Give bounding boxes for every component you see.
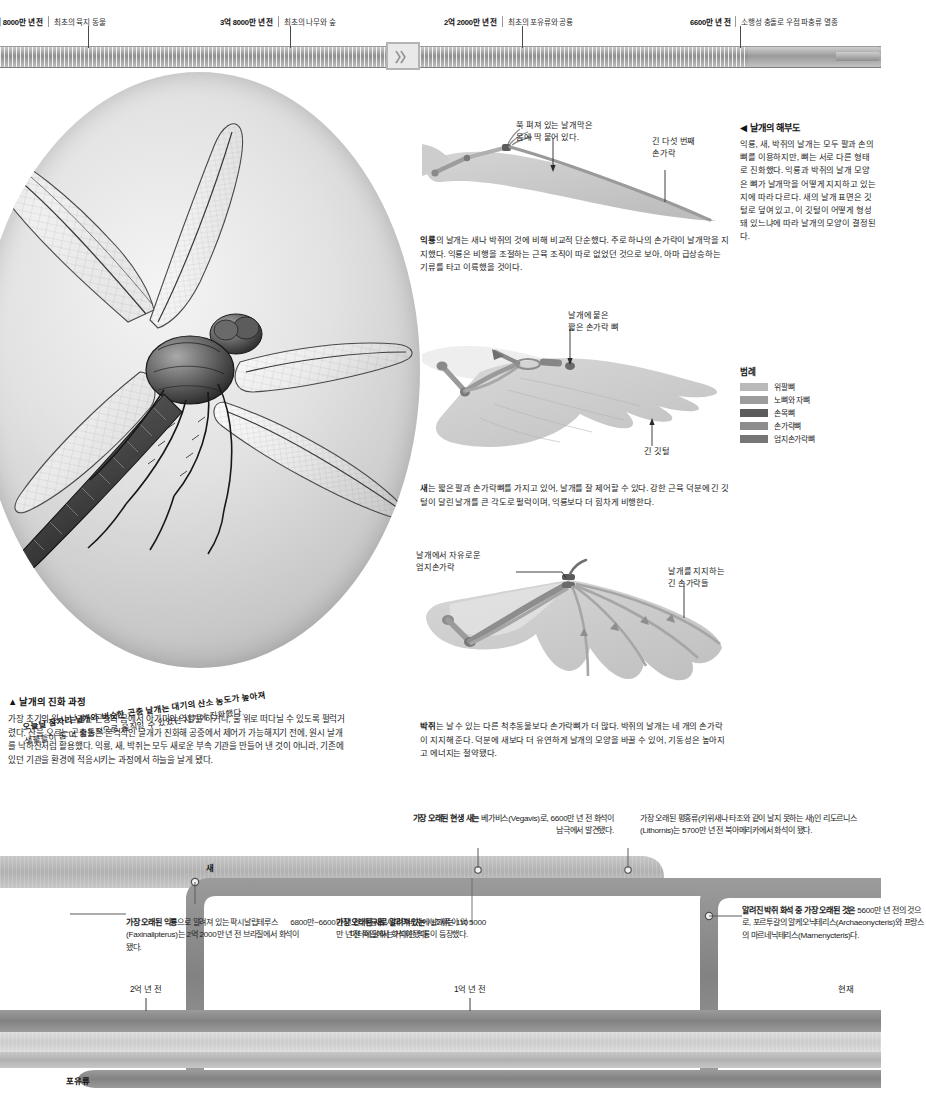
bird-caption: 새는 짧은 팔과 손가락뼈를 가지고 있어, 날개를 잘 제어할 수 있다. 강…	[420, 482, 730, 509]
legend-swatch-thumb	[740, 435, 768, 443]
note-oldest-living-bird-bold: 가장 오래된 현생 새는	[413, 814, 480, 823]
evolution-text-block: ▲ 날개의 진화 과정 가장 초기의 원시 날개는 곤충의 몸에서 아가미의 역…	[8, 694, 348, 767]
legend-label-carpal: 손목뼈	[774, 407, 794, 418]
timeline-sep-3	[735, 16, 736, 27]
dragonfly-photo-panel: 오늘날 잠자리 날개와 비슷한 곤충 날개는 대기의 산소 농도가 높아져 생물…	[0, 72, 420, 668]
bird-note-finger-bone: 날개에 붙은 짧은 손가락 뼈	[568, 310, 619, 335]
dragonfly-illustration	[0, 72, 420, 668]
note-giant-pterosaur-rest: 6800만~6600만 년 전, 익룡의 시대 막바지에 날개폭이 10미터에 …	[290, 918, 468, 940]
timeline-event-0-age: 4억 8000만 년 전	[0, 18, 43, 27]
band-mammals	[78, 1070, 881, 1088]
anatomy-body: 익룡, 새, 박쥐의 날개는 모두 팔과 손의 뼈를 이용하지만, 뼈는 서로 …	[740, 138, 876, 244]
track-label-mammals: 포유류	[66, 1074, 89, 1086]
bottom-timeline-graphic	[0, 848, 881, 1088]
pterosaur-note-fifth-finger: 긴 다섯 번째 손가락	[652, 136, 695, 161]
legend-swatch-humerus	[740, 383, 768, 391]
timeline-bar-tail	[836, 52, 881, 61]
timeline-event-3-age: 6600만 년 전	[690, 18, 730, 27]
legend-swatch-radius-ulna	[740, 396, 768, 404]
diagram-bird: 날개에 붙은 짧은 손가락 뼈 긴 깃털 새는 짧은 팔과 손가락뼈를 가지고 …	[420, 318, 730, 509]
timeline-event-3: 6600만 년 전소행성 충돌로 우점 파충류 멸종	[690, 16, 837, 28]
dragonfly-hindwing-left	[150, 124, 242, 328]
pterosaur-caption-rest: 의 날개는 새나 박쥐의 것에 비해 비교적 단순했다. 주로 하나의 손가락이…	[420, 235, 728, 272]
legend-swatch-phalanx	[740, 422, 768, 430]
pterosaur-caption-lead: 익룡	[420, 235, 436, 245]
legend-label-thumb: 엄지손가락뼈	[774, 433, 815, 444]
note-oldest-ratite: 가장 오래된 평흉류(키위새나 타조와 같이 날지 못하는 새)인 리도르니스(…	[640, 800, 872, 838]
timeline-tick-2	[522, 26, 523, 48]
timeline-event-1-text: 최초의 나무와 숲	[284, 18, 335, 27]
bird-note-long-feather: 긴 깃털	[644, 446, 669, 458]
note-oldest-bat-fossil: 알려진 박쥐 화석 중 가장 오래된 것은 5600만 년 전의 것으로, 포르…	[742, 892, 926, 942]
evolution-body: 가장 초기의 원시 날개는 곤충의 몸에서 아가미의 역할을 하거나, 물 위로…	[8, 713, 348, 767]
legend-title: 범례	[740, 365, 876, 377]
legend: 범례 위팔뼈 노뼈와 자뼈 손목뼈 손가락뼈 엄지손가락뼈	[740, 365, 876, 446]
dragonfly-forewing-left	[0, 156, 154, 322]
timeline-sep-0	[48, 16, 49, 27]
note-oldest-living-bird: 가장 오래된 현생 새는 베가비스(Vegavis)로, 6600만 년 전 화…	[408, 800, 614, 838]
legend-swatch-carpal	[740, 409, 768, 417]
bird-wing-illustration	[420, 318, 730, 458]
bat-caption-rest: 는 날 수 있는 다른 척추동물보다 손가락뼈가 더 많다. 박쥐의 날개는 네…	[420, 721, 725, 758]
bird-caption-lead: 새	[420, 483, 428, 493]
diagram-bird-art	[420, 318, 730, 458]
pterosaur-caption: 익룡의 날개는 새나 박쥐의 것에 비해 비교적 단순했다. 주로 하나의 손가…	[420, 234, 730, 275]
band-ground-mid	[0, 1052, 881, 1068]
diagram-bat: 날개에서 자유로운 엄지손가락 날개를 지지하는 긴 손가락들 박쥐는 날 수 …	[420, 556, 730, 761]
evolution-heading: ▲ 날개의 진화 과정	[8, 694, 348, 708]
timeline-tick-0	[88, 26, 89, 48]
dragonfly-photo	[0, 72, 420, 668]
band-ground-dark	[0, 1010, 881, 1032]
timeline-sep-1	[278, 16, 279, 27]
note-oldest-pterosaur-bold: 가장 오래된 익룡	[126, 918, 177, 927]
timeline-tick-1	[290, 26, 291, 48]
bottom-timeline: 가장 오래된 현생 새는 베가비스(Vegavis)로, 6600만 년 전 화…	[0, 848, 881, 1088]
note-oldest-bat-fossil-bold: 알려진 박쥐 화석 중 가장 오래된 것은	[742, 906, 855, 915]
timeline-event-1-age: 3억 8000만 년 전	[220, 18, 273, 27]
dragonfly-hindwing-right	[214, 402, 403, 518]
legend-item-phalanx: 손가락뼈	[740, 420, 876, 431]
dragonfly-forewing-right	[235, 343, 412, 392]
timeline-sep-2	[502, 16, 503, 27]
bird-caption-rest: 는 짧은 팔과 손가락뼈를 가지고 있어, 날개를 잘 제어할 수 있다. 강한…	[420, 483, 729, 507]
legend-item-humerus: 위팔뼈	[740, 381, 876, 392]
bat-note-free-thumb: 날개에서 자유로운 엄지손가락	[416, 550, 516, 575]
legend-item-thumb: 엄지손가락뼈	[740, 433, 876, 444]
bat-caption: 박쥐는 날 수 있는 다른 척추동물보다 손가락뼈가 더 많다. 박쥐의 날개는…	[420, 720, 730, 761]
timeline-event-2-age: 2억 2000만 년 전	[444, 18, 497, 27]
timeline-event-0: 4억 8000만 년 전최초의 육지 동물	[0, 16, 105, 28]
diagram-pterosaur: 쭉 펴져 있는 날개막은 몸에 딱 붙어 있다. 긴 다섯 번째 손가락 익룡의…	[420, 126, 730, 275]
anatomy-sidebar: ◀ 날개의 해부도 익룡, 새, 박쥐의 날개는 모두 팔과 손의 뼈를 이용하…	[740, 120, 876, 244]
dragonfly-thorax	[146, 336, 234, 404]
timeline-event-0-text: 최초의 육지 동물	[54, 18, 105, 27]
axis-label-200ma: 2억 년 전	[130, 982, 162, 994]
timeline-event-3-text: 소행성 충돌로 우점 파충류 멸종	[741, 18, 837, 27]
timeline-tick-3	[740, 26, 741, 48]
note-oldest-ratite-rest: 가장 오래된 평흉류(키위새나 타조와 같이 날지 못하는 새)인 리도르니스(…	[640, 814, 857, 836]
legend-item-radius-ulna: 노뼈와 자뼈	[740, 394, 876, 405]
bat-caption-lead: 박쥐	[420, 721, 436, 731]
axis-label-present: 현재	[838, 982, 854, 994]
legend-item-carpal: 손목뼈	[740, 407, 876, 418]
timeline-event-2: 2억 2000만 년 전최초의 포유류와 공룡	[444, 16, 573, 28]
pterosaur-note-membrane: 쭉 펴져 있는 날개막은 몸에 딱 붙어 있다.	[516, 120, 592, 145]
timeline-break-marker[interactable]: 〉〉	[386, 42, 420, 70]
axis-label-100ma: 1억 년 전	[454, 982, 486, 994]
note-giant-pterosaur: 6800만~6600만 년 전, 익룡의 시대 막바지에 날개폭이 10미터에 …	[286, 904, 468, 942]
legend-label-phalanx: 손가락뼈	[774, 420, 801, 431]
top-timeline: 〉〉 4억 8000만 년 전최초의 육지 동물 3억 8000만 년 전최초의…	[0, 0, 881, 76]
legend-label-humerus: 위팔뼈	[774, 381, 794, 392]
timeline-event-2-text: 최초의 포유류와 공룡	[508, 18, 573, 27]
pterosaur-membrane	[426, 152, 716, 221]
legend-label-radius-ulna: 노뼈와 자뼈	[774, 394, 810, 405]
track-label-birds: 새	[206, 861, 214, 873]
note-oldest-pterosaur: 가장 오래된 익룡으로 알려져 있는 팍시날립테루스(Faxinalipteru…	[126, 904, 302, 954]
note-oldest-living-bird-rest: 베가비스(Vegavis)로, 6600만 년 전 화석이 남극에서 발견됐다.	[479, 814, 614, 836]
anatomy-heading: ◀ 날개의 해부도	[740, 120, 876, 134]
timeline-event-1: 3억 8000만 년 전최초의 나무와 숲	[220, 16, 335, 28]
bat-note-long-fingers: 날개를 지지하는 긴 손가락들	[668, 566, 725, 591]
